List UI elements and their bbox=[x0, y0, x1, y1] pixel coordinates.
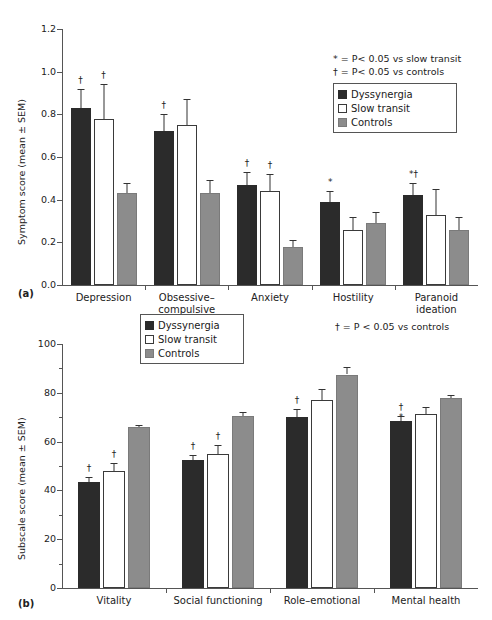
panel-b-y-minor-tick bbox=[59, 515, 62, 516]
error-bar-panel-b-3-2 bbox=[440, 395, 462, 398]
panel-b-y-tick-label-0: 0 bbox=[20, 583, 56, 592]
error-bar-stem bbox=[330, 191, 331, 202]
significance-marker-panel-a-2-1: † bbox=[256, 161, 284, 170]
bar-panel-a-0-1 bbox=[94, 119, 114, 285]
panel-b-note-line-1: † = P < 0.05 vs controls bbox=[335, 320, 449, 333]
error-bar-panel-b-1-2 bbox=[232, 412, 254, 416]
error-bar-cap bbox=[423, 407, 430, 408]
significance-marker-panel-a-4-0: *† bbox=[399, 170, 427, 179]
bar-panel-a-1-1 bbox=[177, 125, 197, 285]
panel-b-y-tick-label-2: 40 bbox=[20, 485, 56, 494]
bar-panel-a-4-2 bbox=[449, 230, 469, 285]
significance-marker-panel-b-0-1: † bbox=[99, 450, 129, 459]
error-bar-panel-b-1-0 bbox=[182, 455, 204, 460]
panel-a-y-tick-label-2: 0.4 bbox=[20, 195, 56, 204]
significance-marker-panel-a-3-0: * bbox=[316, 178, 344, 187]
error-bar-stem bbox=[126, 183, 127, 194]
error-bar-stem bbox=[413, 183, 414, 196]
bar-panel-a-0-0 bbox=[71, 108, 91, 285]
error-bar-cap bbox=[244, 172, 251, 173]
panel-a-y-tick-label-0: 0.0 bbox=[20, 280, 56, 289]
bar-panel-b-3-1 bbox=[415, 414, 437, 588]
error-bar-cap bbox=[160, 114, 167, 115]
panel-a-category-label-2: Anxiety bbox=[228, 292, 311, 304]
panel-a-y-tick-5 bbox=[57, 72, 62, 73]
bar-panel-b-2-0 bbox=[286, 417, 308, 588]
panel-b-legend-item-0: Dyssynergia bbox=[145, 318, 237, 332]
error-bar-cap bbox=[183, 99, 190, 100]
error-bar-cap bbox=[86, 477, 93, 478]
error-bar-stem bbox=[347, 367, 348, 374]
significance-marker-panel-b-0-0: † bbox=[74, 464, 104, 473]
bar-panel-b-0-0 bbox=[78, 482, 100, 588]
bar-panel-b-2-2 bbox=[336, 375, 358, 589]
panel-a-legend-label-2: Controls bbox=[351, 117, 392, 128]
panel-a-x-separator-tick bbox=[395, 286, 396, 290]
bar-panel-a-1-0 bbox=[154, 131, 174, 285]
bar-panel-b-1-2 bbox=[232, 416, 254, 588]
error-bar-panel-a-0-0 bbox=[71, 89, 91, 108]
panel-b-legend-swatch-icon-2 bbox=[145, 349, 154, 358]
caption-strip bbox=[0, 612, 492, 620]
error-bar-cap bbox=[240, 412, 247, 413]
panel-a-legend-item-1: Slow transit bbox=[338, 101, 450, 115]
panel-b-y-axis-line bbox=[62, 344, 63, 588]
error-bar-cap bbox=[111, 463, 118, 464]
panel-a-legend-label-1: Slow transit bbox=[351, 103, 410, 114]
panel-b-x-separator-tick bbox=[374, 589, 375, 593]
error-bar-stem bbox=[353, 217, 354, 230]
panel-a-significance-note: * = P< 0.05 vs slow transit † = P< 0.05 … bbox=[333, 52, 461, 78]
error-bar-cap bbox=[373, 212, 380, 213]
bar-panel-a-3-2 bbox=[366, 223, 386, 285]
panel-b-y-tick-2 bbox=[57, 490, 62, 491]
panel-a-category-label-3: Hostility bbox=[312, 292, 395, 304]
panel-b-y-tick-1 bbox=[57, 539, 62, 540]
panel-b-legend-item-2: Controls bbox=[145, 346, 237, 360]
figure-two-panel-bar-chart: (a) Symptom score (mean ± SEM) 0.00.20.4… bbox=[0, 0, 492, 620]
error-bar-panel-b-2-2 bbox=[336, 367, 358, 374]
panel-a-y-tick-0 bbox=[57, 285, 62, 286]
bar-panel-b-3-0 bbox=[390, 421, 412, 588]
panel-a-y-tick-label-6: 1.2 bbox=[20, 24, 56, 33]
panel-a-y-tick-4 bbox=[57, 114, 62, 115]
bar-panel-a-4-0 bbox=[403, 195, 423, 285]
bar-panel-a-2-0 bbox=[237, 185, 257, 285]
error-bar-panel-b-0-0 bbox=[78, 477, 100, 481]
error-bar-cap bbox=[294, 409, 301, 410]
panel-b-legend-label-0: Dyssynergia bbox=[158, 320, 220, 331]
error-bar-panel-a-0-2 bbox=[117, 183, 137, 194]
panel-b-legend-swatch-icon-1 bbox=[145, 335, 154, 344]
error-bar-panel-b-2-0 bbox=[286, 409, 308, 418]
panel-b-x-separator-tick bbox=[166, 589, 167, 593]
panel-a-x-separator-tick bbox=[228, 286, 229, 290]
error-bar-cap bbox=[344, 367, 351, 368]
error-bar-panel-b-0-1 bbox=[103, 463, 125, 471]
error-bar-stem bbox=[80, 89, 81, 108]
panel-b: (b) Subscale score (mean ± SEM) 02040608… bbox=[0, 310, 492, 620]
error-bar-cap bbox=[319, 389, 326, 390]
panel-a-legend-label-0: Dyssynergia bbox=[351, 89, 413, 100]
bar-panel-b-1-0 bbox=[182, 460, 204, 588]
error-bar-panel-a-3-2 bbox=[366, 212, 386, 223]
error-bar-stem bbox=[163, 114, 164, 131]
error-bar-stem bbox=[186, 99, 187, 125]
error-bar-stem bbox=[114, 463, 115, 471]
panel-b-y-tick-label-1: 20 bbox=[20, 534, 56, 543]
error-bar-stem bbox=[209, 180, 210, 193]
error-bar-cap bbox=[448, 395, 455, 396]
significance-marker-panel-b-1-0: † bbox=[178, 442, 208, 451]
panel-a-legend-swatch-icon-1 bbox=[338, 104, 347, 113]
panel-a-legend-swatch-icon-2 bbox=[338, 118, 347, 127]
panel-a-category-label-0: Depression bbox=[62, 292, 145, 304]
bar-panel-b-3-2 bbox=[440, 398, 462, 588]
error-bar-panel-a-1-1 bbox=[177, 99, 197, 125]
bar-panel-a-0-2 bbox=[117, 193, 137, 285]
error-bar-cap bbox=[190, 455, 197, 456]
error-bar-stem bbox=[218, 445, 219, 454]
panel-b-y-tick-label-4: 80 bbox=[20, 388, 56, 397]
panel-b-y-tick-4 bbox=[57, 393, 62, 394]
error-bar-panel-b-2-1 bbox=[311, 389, 333, 400]
error-bar-panel-a-2-0 bbox=[237, 172, 257, 185]
error-bar-stem bbox=[297, 409, 298, 418]
panel-b-y-tick-3 bbox=[57, 442, 62, 443]
